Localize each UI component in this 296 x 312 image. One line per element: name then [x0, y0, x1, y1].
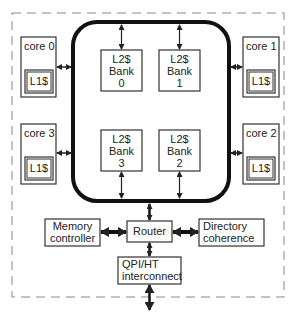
memory-controller: Memory controller	[45, 219, 100, 246]
svg-text:Bank: Bank	[109, 65, 135, 77]
l2-bank-0: L2$ Bank 0	[101, 50, 142, 91]
svg-text:core 1: core 1	[246, 40, 277, 52]
directory-coherence: Directory coherence	[199, 219, 264, 246]
core-3: core 3 L1$	[21, 124, 56, 184]
ring-interconnect	[73, 22, 229, 201]
multicore-diagram: L2$ Bank 0 L2$ Bank 1 L2$ Bank 3 L2$ Ban…	[0, 0, 296, 312]
svg-text:L2$: L2$	[170, 133, 188, 145]
svg-text:Directory: Directory	[203, 220, 248, 232]
l2-bank-2: L2$ Bank 2	[159, 130, 200, 171]
svg-text:3: 3	[118, 157, 124, 169]
router: Router	[127, 221, 172, 242]
svg-text:L1$: L1$	[252, 162, 270, 174]
svg-text:core 0: core 0	[24, 40, 55, 52]
svg-text:Router: Router	[133, 225, 166, 237]
svg-text:L1$: L1$	[30, 75, 48, 87]
svg-text:L2$: L2$	[112, 133, 130, 145]
svg-text:core 2: core 2	[246, 127, 277, 139]
svg-text:core 3: core 3	[24, 127, 55, 139]
svg-text:QPI/HT: QPI/HT	[122, 258, 159, 270]
svg-text:L1$: L1$	[30, 162, 48, 174]
svg-text:L2$: L2$	[112, 53, 130, 65]
l2-bank-3: L2$ Bank 3	[101, 130, 142, 171]
svg-text:coherence: coherence	[203, 232, 254, 244]
core-2: core 2 L1$	[243, 124, 279, 184]
svg-text:controller: controller	[50, 232, 96, 244]
svg-text:Bank: Bank	[167, 145, 193, 157]
qpi-ht-interconnect: QPI/HT interconnect	[118, 257, 182, 284]
core-arrows	[57, 67, 242, 153]
svg-text:L2$: L2$	[170, 53, 188, 65]
core-1: core 1 L1$	[243, 37, 279, 97]
svg-text:L1$: L1$	[252, 75, 270, 87]
svg-text:Memory: Memory	[53, 220, 93, 232]
svg-text:Bank: Bank	[109, 145, 135, 157]
svg-text:1: 1	[176, 77, 182, 89]
svg-text:2: 2	[176, 157, 182, 169]
svg-text:interconnect: interconnect	[122, 270, 182, 282]
l2-bank-1: L2$ Bank 1	[159, 50, 200, 91]
svg-text:0: 0	[118, 77, 124, 89]
core-0: core 0 L1$	[21, 37, 56, 97]
svg-text:Bank: Bank	[167, 65, 193, 77]
